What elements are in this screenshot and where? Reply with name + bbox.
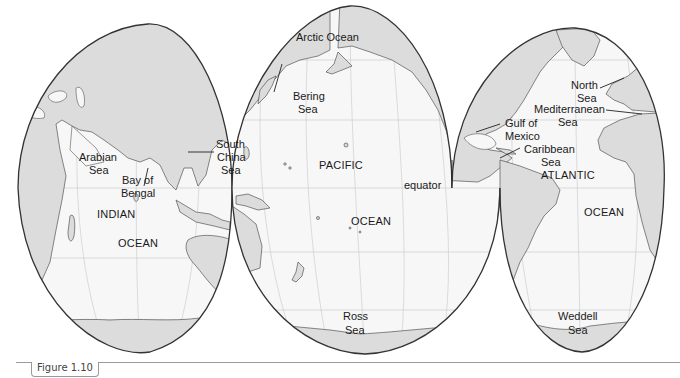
label-caribbean-sea: Caribbean — [524, 143, 575, 155]
svg-text:Sea: Sea — [558, 116, 578, 128]
pacific-lobe — [220, 0, 520, 378]
caption-rule — [70, 362, 680, 363]
svg-text:Sea: Sea — [345, 324, 365, 336]
label-atlantic: ATLANTIC — [541, 169, 595, 181]
label-arctic-ocean: Arctic Ocean — [296, 31, 359, 43]
svg-text:Bengal: Bengal — [121, 187, 155, 199]
caption-label: Figure 1.10 — [31, 362, 99, 377]
figure-caption: Figure 1.10 — [16, 362, 680, 378]
label-mediterranean-sea: Mediterranean — [534, 103, 605, 115]
indian-lobe — [0, 0, 240, 378]
label-indian: INDIAN — [97, 208, 135, 220]
label-north-sea: North — [571, 79, 598, 91]
label-pacific: PACIFIC — [319, 159, 363, 171]
label-equator: equator — [404, 179, 442, 191]
svg-text:Sea: Sea — [298, 103, 318, 115]
world-ocean-map: Arctic Ocean Bering Sea South China Sea … — [0, 0, 680, 378]
label-arabian-sea: Arabian — [79, 151, 117, 163]
svg-text:China: China — [217, 151, 247, 163]
label-atlantic-ocean: OCEAN — [584, 206, 624, 218]
svg-text:Sea: Sea — [568, 324, 588, 336]
caption-rule-left — [16, 362, 31, 363]
label-indian-ocean: OCEAN — [118, 237, 158, 249]
svg-text:Sea: Sea — [221, 164, 241, 176]
label-bay-of-bengal: Bay of — [122, 174, 154, 186]
label-weddell-sea: Weddell — [558, 310, 598, 322]
label-south-china-sea: South — [216, 138, 245, 150]
label-ross-sea: Ross — [343, 310, 369, 322]
label-pacific-ocean: OCEAN — [351, 215, 391, 227]
svg-text:Sea: Sea — [89, 164, 109, 176]
label-bering-sea: Bering — [293, 90, 325, 102]
svg-text:Mexico: Mexico — [505, 130, 540, 142]
label-gulf-of-mexico: Gulf of — [505, 117, 538, 129]
svg-text:Sea: Sea — [541, 156, 561, 168]
